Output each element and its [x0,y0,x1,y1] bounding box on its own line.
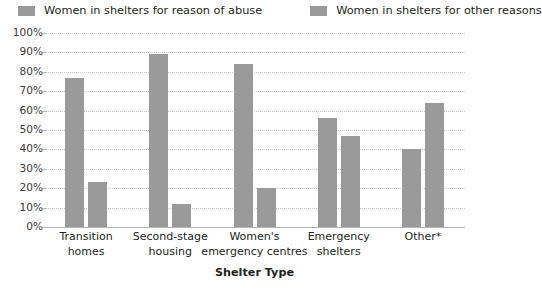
legend-item-abuse: Women in shelters for reason of abuse [18,0,262,22]
bar [65,78,84,227]
y-tick-label: 30% [3,163,43,174]
chart-legend: Women in shelters for reason of abuse Wo… [0,0,465,22]
bar-group [234,33,276,227]
y-tick-label: 10% [3,202,43,213]
bar-groups [44,33,465,227]
y-tick-label: 100% [3,27,43,38]
x-tick-label-line: Other* [369,230,477,245]
x-axis-title: Shelter Type [44,266,465,279]
y-tick-label: 70% [3,85,43,96]
bar-group [402,33,444,227]
bar [402,149,421,227]
y-tick-label: 80% [3,66,43,77]
bar [341,136,360,227]
y-tick-mark [43,227,47,228]
plot-area: 0%10%20%30%40%50%60%70%80%90%100% [44,33,465,227]
y-tick-label: 40% [3,143,43,154]
x-tick-label: Other* [369,230,477,245]
bar [234,64,253,227]
bar-group [149,33,191,227]
bar [257,188,276,227]
bar-group [65,33,107,227]
legend-item-other: Women in shelters for other reasons [310,0,542,22]
legend-label: Women in shelters for other reasons [336,5,542,17]
bar [318,118,337,227]
y-tick-label: 20% [3,182,43,193]
axis-baseline [44,227,465,228]
y-tick-label: 90% [3,46,43,57]
bar-group [318,33,360,227]
legend-swatch-icon [310,6,327,16]
bar [172,204,191,227]
legend-label: Women in shelters for reason of abuse [44,5,262,17]
bar [425,103,444,227]
y-tick-label: 60% [3,105,43,116]
x-tick-label-line: shelters [285,245,393,260]
bar [88,182,107,227]
legend-swatch-icon [18,6,35,16]
bar [149,54,168,227]
x-axis-labels: TransitionhomesSecond-stagehousingWomen'… [44,230,465,264]
y-tick-label: 50% [3,124,43,135]
